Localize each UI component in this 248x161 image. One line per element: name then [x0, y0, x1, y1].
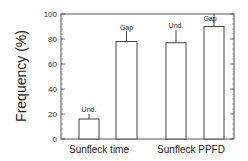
x-category-label: Sunfleck time [69, 144, 129, 155]
bar-chart: 020406080100 Und.GapUnd.Gap Sunfleck tim… [0, 0, 248, 161]
x-category-label: Sunfleck PPFD [157, 144, 225, 155]
bar-annotation: Und. [169, 22, 184, 29]
y-tick-label: 0 [53, 135, 58, 144]
bar-annotation: Gap [203, 15, 216, 23]
y-tick-label: 40 [48, 85, 57, 94]
bar [204, 27, 224, 140]
bars: Und.GapUnd.Gap [79, 14, 224, 139]
y-tick-label: 60 [48, 60, 57, 69]
bar [79, 119, 99, 139]
y-tick-label: 20 [48, 110, 57, 119]
bar-annotation: Gap [120, 24, 133, 32]
bar-annotation: Und. [82, 106, 97, 113]
y-axis-label: Frequency (%) [13, 30, 29, 122]
y-tick-label: 100 [44, 10, 58, 19]
bar [116, 42, 137, 140]
x-axis-labels: Sunfleck timeSunfleck PPFD [69, 144, 225, 155]
y-tick-label: 80 [48, 35, 57, 44]
bar [166, 43, 186, 139]
